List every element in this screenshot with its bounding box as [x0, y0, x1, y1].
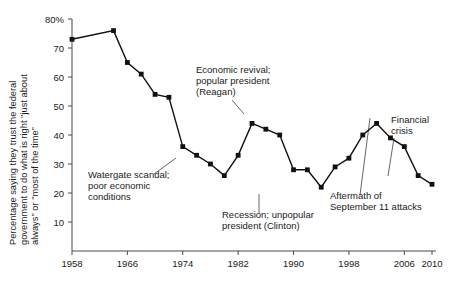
y-tick-label: 40: [53, 130, 64, 141]
annotation-reagan-line-1: Economic revival;: [196, 64, 270, 75]
y-tick-label: 20: [53, 188, 64, 199]
data-point-marker: [180, 144, 185, 149]
data-point-marker: [236, 153, 241, 158]
annotation-watergate-line-1: Watergate scandal;: [88, 169, 170, 180]
trust-in-government-line-chart: Percentage saying they trust the federal…: [0, 0, 450, 284]
data-point-marker: [347, 156, 352, 161]
y-axis-ticks: 1020304050607080%: [45, 14, 72, 228]
annotation-september11: Aftermath ofSeptember 11 attacks: [330, 190, 422, 212]
chart-container: Percentage saying they trust the federal…: [0, 0, 450, 284]
annotations: Watergate scandal;poor economiccondition…: [88, 64, 429, 231]
annotation-financial-crisis-line-2: crisis: [391, 125, 413, 136]
data-point-marker: [374, 121, 379, 126]
data-point-marker: [194, 153, 199, 158]
data-point-marker: [319, 185, 324, 190]
data-point-marker: [208, 162, 213, 167]
y-tick-label: 10: [53, 217, 64, 228]
annotation-clinton: Recession; unpopularpresident (Clinton): [222, 209, 314, 231]
x-tick-label: 1998: [338, 258, 359, 269]
data-point-marker: [388, 136, 393, 141]
leader-line-reagan: [232, 100, 244, 114]
annotation-september11-line-2: September 11 attacks: [330, 201, 422, 212]
data-point-marker: [111, 28, 116, 33]
data-point-marker: [222, 173, 227, 178]
annotation-september11-line-1: Aftermath of: [330, 190, 382, 201]
y-tick-label: 60: [53, 72, 64, 83]
annotation-clinton-line-1: Recession; unpopular: [222, 209, 314, 220]
data-point-marker: [125, 60, 130, 65]
data-point-marker: [153, 92, 158, 97]
annotation-clinton-line-2: president (Clinton): [222, 220, 300, 231]
y-axis-label-line-2: government to do what is right "just abo…: [19, 74, 29, 245]
y-tick-label: 30: [53, 159, 64, 170]
data-point-marker: [291, 167, 296, 172]
x-axis-ticks: 19581966197419821990199820062010: [61, 251, 442, 269]
data-point-marker: [70, 37, 75, 42]
x-tick-label: 1974: [172, 258, 193, 269]
y-tick-label: 80%: [45, 14, 65, 25]
y-tick-label: 50: [53, 101, 64, 112]
x-tick-label: 2006: [394, 258, 415, 269]
annotation-watergate-line-3: conditions: [88, 191, 131, 202]
y-axis-label-line-3: always" or "most of the time": [30, 127, 40, 245]
x-tick-label: 1958: [61, 258, 82, 269]
y-axis-label: Percentage saying they trust the federal…: [8, 74, 40, 245]
x-tick-label: 2010: [421, 258, 442, 269]
data-point-marker: [333, 165, 338, 170]
x-tick-label: 1990: [283, 258, 304, 269]
y-axis-label-line-1: Percentage saying they trust the federal: [8, 81, 18, 245]
leader-line-financial-crisis: [388, 138, 394, 176]
data-point-marker: [305, 167, 310, 172]
annotation-reagan: Economic revival;popular president(Reaga…: [196, 64, 270, 97]
annotation-reagan-line-2: popular president: [196, 75, 270, 86]
x-tick-label: 1982: [228, 258, 249, 269]
series-line-trust: [72, 31, 432, 188]
data-point-marker: [250, 121, 255, 126]
annotation-financial-crisis-line-1: Financial: [391, 114, 429, 125]
annotation-reagan-line-3: (Reagan): [196, 86, 236, 97]
data-point-marker: [277, 133, 282, 138]
data-point-marker: [416, 173, 421, 178]
y-tick-label: 70: [53, 43, 64, 54]
x-tick-label: 1966: [117, 258, 138, 269]
data-point-marker: [167, 95, 172, 100]
data-point-marker: [139, 72, 144, 77]
data-point-marker: [263, 127, 268, 132]
annotation-financial-crisis: Financialcrisis: [391, 114, 429, 136]
data-series: [72, 31, 432, 188]
annotation-watergate-line-2: poor economic: [88, 180, 151, 191]
data-point-markers: [70, 28, 435, 189]
annotation-watergate: Watergate scandal;poor economiccondition…: [88, 169, 170, 202]
data-point-marker: [402, 144, 407, 149]
data-point-marker: [430, 182, 435, 187]
data-point-marker: [360, 133, 365, 138]
